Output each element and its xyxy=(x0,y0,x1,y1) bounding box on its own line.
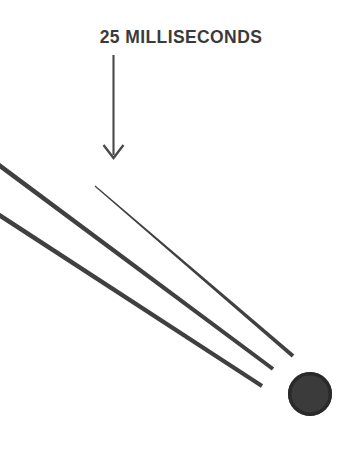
motion-streak-middle xyxy=(0,161,274,370)
motion-streak-top xyxy=(95,186,295,358)
motion-trails-group xyxy=(0,161,294,388)
down-arrow-icon xyxy=(104,55,124,158)
motion-trail-figure: 25 MILLISECONDS xyxy=(0,0,346,453)
motion-streak-bottom xyxy=(0,211,263,388)
moving-ball xyxy=(288,372,332,416)
scene-canvas xyxy=(0,0,346,453)
